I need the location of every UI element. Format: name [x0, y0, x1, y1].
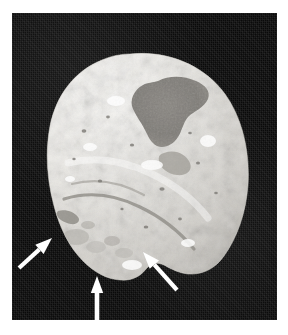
photo-plate — [12, 13, 277, 320]
figure-bottom-margin — [0, 320, 288, 335]
specimen-layer — [12, 13, 277, 320]
figure-root — [0, 0, 288, 335]
bone-body — [12, 13, 277, 320]
bone-specimen — [12, 13, 277, 320]
bone-film-grain — [12, 13, 277, 320]
